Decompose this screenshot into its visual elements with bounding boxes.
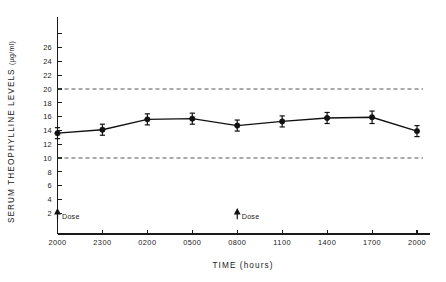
x-axis-tick-label: 1100 — [273, 238, 291, 247]
data-point-marker — [414, 128, 419, 133]
serum-theophylline-line-chart: 2468101214161820222426 20002300020005000… — [0, 0, 446, 282]
data-point-marker — [235, 123, 240, 128]
x-axis-tick-label: 0500 — [183, 238, 201, 247]
y-axis-tick-label: 4 — [48, 195, 52, 204]
data-point-marker — [100, 127, 105, 132]
y-axis-title-group: SERUM THEOPHYLLINE LEVELS (µg/ml) — [7, 41, 16, 223]
y-axis-tick-label: 20 — [43, 85, 52, 94]
data-point-marker — [190, 116, 195, 121]
x-axis-tick-label: 1700 — [363, 238, 381, 247]
data-point-marker — [324, 115, 329, 120]
chart-figure: 2468101214161820222426 20002300020005000… — [0, 0, 446, 282]
y-axis-title: SERUM THEOPHYLLINE LEVELS (µg/ml) — [7, 41, 16, 223]
x-axis-tick-label: 2000 — [48, 238, 66, 247]
y-axis-tick-label: 26 — [43, 43, 52, 52]
y-axis-tick-label: 2 — [48, 209, 52, 218]
y-axis-title-main: SERUM THEOPHYLLINE LEVELS — [7, 65, 16, 223]
y-axis-tick-label: 12 — [43, 140, 52, 149]
y-axis-tick-label: 14 — [43, 126, 52, 135]
x-axis-title: TIME (hours) — [213, 261, 274, 270]
data-point-marker — [279, 119, 284, 124]
dose-label: Dose — [62, 212, 80, 221]
data-point-marker — [55, 130, 60, 135]
y-axis-tick-label: 10 — [43, 154, 52, 163]
y-axis-tick-label: 18 — [43, 99, 52, 108]
x-axis-tick-label: 2000 — [408, 238, 426, 247]
y-axis-title-units: (µg/ml) — [8, 41, 16, 65]
dose-label: Dose — [242, 212, 260, 221]
y-axis-tick-label: 8 — [48, 168, 52, 177]
x-axis-tick-label: 0200 — [138, 238, 156, 247]
x-axis-tick-label: 2300 — [93, 238, 111, 247]
data-point-marker — [369, 115, 374, 120]
data-point-marker — [145, 117, 150, 122]
y-axis-tick-label: 6 — [48, 181, 52, 190]
y-axis-tick-label: 22 — [43, 71, 52, 80]
y-axis-tick-label: 16 — [43, 112, 52, 121]
x-axis-tick-label: 1400 — [318, 238, 336, 247]
x-axis-tick-label: 0800 — [228, 238, 246, 247]
y-axis-tick-label: 24 — [43, 57, 52, 66]
